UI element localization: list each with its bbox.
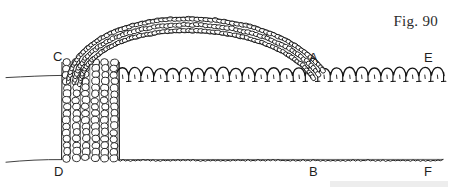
scan-artifact-band [330, 181, 448, 187]
point-label-f: F [424, 164, 432, 179]
point-label-e: E [424, 50, 433, 65]
figure-container: Fig. 90 C A E D B F [0, 0, 450, 189]
left-guide-lines [6, 75, 63, 162]
figure-caption: Fig. 90 [393, 13, 438, 30]
foundation-row-chain [118, 159, 443, 161]
point-label-d: D [54, 164, 63, 179]
point-label-a: A [309, 50, 318, 65]
crochet-diagram-drawing [0, 0, 450, 189]
point-label-b: B [309, 164, 318, 179]
upper-row-stitches [116, 67, 446, 82]
point-label-c: C [53, 49, 62, 64]
